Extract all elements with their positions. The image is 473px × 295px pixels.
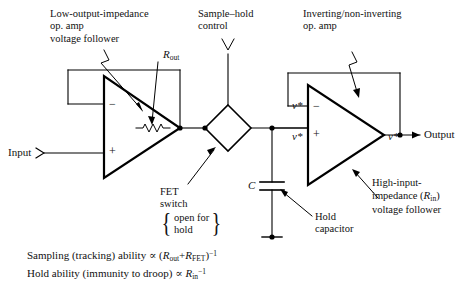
- leader-sample-hold-arrow: [222, 39, 234, 50]
- leader-right-opamp-arrowhead: [353, 88, 360, 98]
- fet-switch-brace-line1: open for: [174, 212, 209, 224]
- left-opamp-minus-sign: −: [109, 97, 116, 111]
- formula2-prop: ∝: [175, 267, 182, 279]
- label-r-out: Rout: [163, 48, 179, 63]
- annotation-hold-capacitor-line1: Hold: [315, 211, 353, 223]
- brace-right: }: [212, 213, 222, 234]
- formula1-text: Sampling (tracking) ability: [27, 249, 149, 261]
- annotation-sample-hold-line1: Sample–hold: [198, 8, 253, 20]
- annotation-right-opamp-line2: op. amp: [303, 20, 402, 32]
- formula1-rout-subscript: out: [170, 254, 180, 263]
- label-vstar-minus-input: v*: [292, 99, 302, 112]
- fet-switch-brace-text: open for hold: [173, 212, 210, 236]
- annotation-right-opamp: Inverting/non-inverting op. amp: [303, 8, 402, 33]
- junction-dot-hold-node: [269, 125, 274, 130]
- formula1-exponent: −1: [209, 249, 217, 258]
- annotation-high-input-line2: impedance (Rin): [372, 189, 441, 204]
- output-arrowhead: [412, 132, 420, 139]
- annotation-left-opamp-line1: Low-output-impedance: [50, 8, 149, 20]
- leader-r-out-arrowhead: [148, 116, 155, 125]
- annotation-high-input-impedance: High-input- impedance (Rin) voltage foll…: [372, 177, 441, 217]
- annotation-sample-hold-control: Sample–hold control: [198, 8, 253, 33]
- label-vstar-output: v*: [388, 130, 398, 143]
- label-output: Output: [424, 128, 455, 141]
- sample-hold-circuit-figure: Low-output-impedance op. amp voltage fol…: [0, 0, 473, 295]
- formula2-text: Hold ability (immunity to droop): [27, 267, 175, 279]
- label-r-out-symbol: R: [163, 48, 170, 60]
- input-connector-arrow: [36, 148, 44, 158]
- leader-hold-capacitor: [283, 192, 312, 216]
- annotation-fet-switch: FET switch { open for hold }: [160, 186, 223, 235]
- annotation-sample-hold-line2: control: [198, 20, 253, 32]
- fet-switch-brace-line2: hold: [174, 224, 209, 236]
- annotation-hold-capacitor-line2: capacitor: [315, 223, 353, 235]
- left-opamp-plus-sign: +: [109, 144, 116, 158]
- right-opamp-plus-sign: +: [313, 127, 320, 141]
- annotation-high-input-line1: High-input-: [372, 177, 441, 189]
- annotation-high-input-line2-post: ): [436, 190, 440, 201]
- leader-left-opamp-arrowhead: [136, 102, 143, 112]
- formula2-exponent: −1: [198, 267, 206, 276]
- formula-sampling-ability: Sampling (tracking) ability ∝ (Rout+RFET…: [27, 249, 217, 264]
- label-capacitor: C: [248, 179, 255, 192]
- annotation-hold-capacitor: Hold capacitor: [315, 211, 353, 236]
- annotation-high-input-line3: voltage follower: [372, 204, 441, 216]
- annotation-fet-switch-line1: FET: [160, 186, 223, 198]
- annotation-high-input-line2-pre: impedance (: [372, 190, 424, 201]
- annotation-right-opamp-line1: Inverting/non-inverting: [303, 8, 402, 20]
- label-input: Input: [8, 146, 31, 159]
- annotation-left-opamp-line2: op. amp: [50, 20, 149, 32]
- leader-fet-switch: [188, 150, 214, 184]
- formula-hold-ability: Hold ability (immunity to droop) ∝ Rin−1: [27, 267, 206, 282]
- right-opamp-minus-sign: −: [313, 99, 320, 113]
- brace-left: {: [162, 213, 172, 234]
- junction-dot-left-output: [177, 125, 182, 130]
- fet-switch-brace-group: { open for hold }: [160, 212, 223, 236]
- fet-switch-diamond: [205, 105, 251, 151]
- junction-dot-ground: [269, 234, 274, 239]
- formula1-rfet-subscript: FET: [192, 254, 205, 263]
- junction-dot-switch-input: [202, 125, 207, 130]
- r-out-resistor-zigzag: [136, 124, 170, 132]
- label-vstar-plus-input: v*: [292, 130, 302, 143]
- left-opamp-triangle: [104, 76, 180, 178]
- leader-left-opamp: [101, 50, 142, 110]
- label-r-out-subscript: out: [170, 53, 180, 62]
- annotation-left-opamp: Low-output-impedance op. amp voltage fol…: [50, 8, 149, 45]
- formula1-rout-symbol: R: [163, 249, 170, 261]
- annotation-left-opamp-line3: voltage follower: [50, 33, 149, 45]
